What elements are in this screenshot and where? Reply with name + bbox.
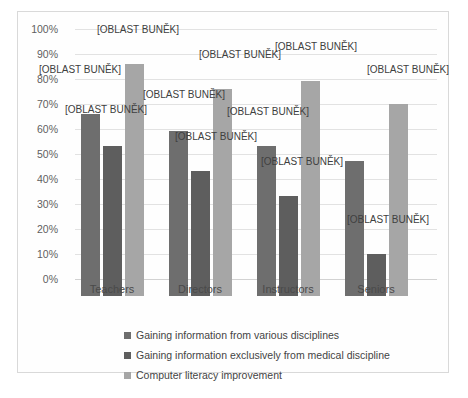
legend-swatch-icon: [124, 352, 131, 359]
y-axis-tick-label: 10%: [37, 249, 58, 260]
bar-group: [81, 46, 144, 296]
legend-swatch-icon: [124, 372, 131, 379]
bar[interactable]: [169, 131, 188, 296]
x-axis-category-label: Seniors: [357, 284, 394, 295]
legend-swatch-icon: [124, 332, 131, 339]
y-axis-tick-label: 70%: [37, 99, 58, 110]
bar[interactable]: [191, 171, 210, 296]
bar[interactable]: [81, 114, 100, 297]
y-axis-tick-label: 30%: [37, 199, 58, 210]
legend-item[interactable]: Gaining information from various discipl…: [124, 325, 390, 345]
chart-container: 100%90%80%70%60%50%40%30%20%10%0%Teacher…: [17, 11, 449, 373]
bar-data-label: [OBLAST BUNĚK]: [347, 215, 429, 225]
chart-legend: Gaining information from various discipl…: [124, 325, 390, 385]
bar-group: [257, 46, 320, 296]
legend-label: Gaining information from various discipl…: [136, 330, 339, 341]
y-axis-tick-label: 100%: [31, 24, 58, 35]
x-axis-category-label: Teachers: [90, 284, 135, 295]
legend-label: Gaining information exclusively from med…: [136, 350, 390, 361]
bar[interactable]: [257, 146, 276, 296]
bar-data-label: [OBLAST BUNĚK]: [227, 107, 309, 117]
bar-data-label: [OBLAST BUNĚK]: [39, 65, 121, 75]
bar-data-label: [OBLAST BUNĚK]: [367, 65, 449, 75]
y-axis-tick-label: 60%: [37, 124, 58, 135]
bar[interactable]: [279, 196, 298, 296]
bar[interactable]: [103, 146, 122, 296]
y-axis-tick-label: 80%: [37, 74, 58, 85]
bar-data-label: [OBLAST BUNĚK]: [143, 90, 225, 100]
plot-area: 100%90%80%70%60%50%40%30%20%10%0%Teacher…: [62, 29, 437, 296]
y-axis-tick-label: 50%: [37, 149, 58, 160]
bar[interactable]: [213, 89, 232, 297]
bar-data-label: [OBLAST BUNĚK]: [199, 50, 281, 60]
x-axis-category-label: Directors: [178, 284, 222, 295]
bar[interactable]: [345, 161, 364, 296]
legend-item[interactable]: Gaining information exclusively from med…: [124, 345, 390, 365]
bar[interactable]: [389, 104, 408, 297]
legend-item[interactable]: Computer literacy improvement: [124, 365, 390, 385]
bar-data-label: [OBLAST BUNĚK]: [175, 132, 257, 142]
bar-data-label: [OBLAST BUNĚK]: [65, 105, 147, 115]
bar-group: [169, 46, 232, 296]
y-axis-tick-label: 20%: [37, 224, 58, 235]
legend-label: Computer literacy improvement: [136, 370, 282, 381]
bar[interactable]: [125, 64, 144, 297]
bar-data-label: [OBLAST BUNĚK]: [261, 157, 343, 167]
bar-data-label: [OBLAST BUNĚK]: [275, 42, 357, 52]
y-axis-tick-label: 90%: [37, 49, 58, 60]
y-axis-tick-label: 40%: [37, 174, 58, 185]
x-axis-category-label: Instructors: [262, 284, 313, 295]
bar-data-label: [OBLAST BUNĚK]: [97, 25, 179, 35]
y-axis-tick-label: 0%: [43, 274, 58, 285]
bar-group: [345, 46, 408, 296]
